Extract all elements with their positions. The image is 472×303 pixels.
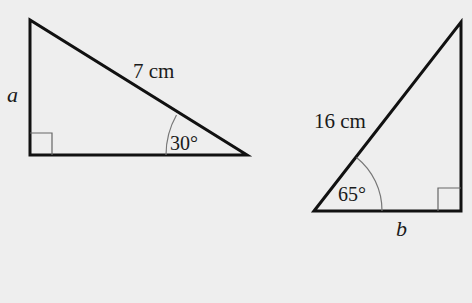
right-angle-label: 65° — [338, 183, 366, 205]
triangles-diagram: 7 cm a 30° 16 cm b 65° — [0, 0, 472, 303]
right-right-angle-marker — [438, 188, 461, 211]
left-triangle-outline — [30, 20, 247, 155]
right-hypotenuse-label: 16 cm — [314, 109, 366, 133]
left-right-angle-marker — [30, 133, 52, 155]
left-triangle: 7 cm a 30° — [7, 20, 247, 155]
left-hypotenuse-label: 7 cm — [133, 59, 174, 83]
right-triangle: 16 cm b 65° — [314, 22, 461, 241]
left-angle-label: 30° — [170, 132, 198, 154]
left-side-label-a: a — [7, 82, 18, 107]
figure-canvas: 7 cm a 30° 16 cm b 65° — [0, 0, 472, 303]
right-side-label-b: b — [396, 216, 407, 241]
